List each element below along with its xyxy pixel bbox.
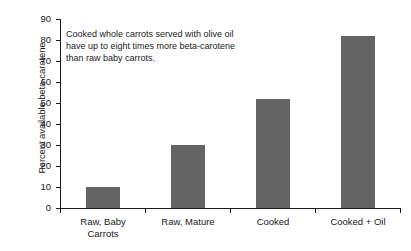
x-axis-tick-mark bbox=[400, 209, 401, 213]
y-axis-tick-mark bbox=[56, 61, 60, 62]
y-axis-tick-label: 90 bbox=[0, 12, 51, 25]
y-axis-tick-mark bbox=[56, 19, 60, 20]
y-axis-tick-label: 20 bbox=[0, 159, 51, 172]
y-axis-tick-label: 80 bbox=[0, 33, 51, 46]
y-axis-tick-label: 70 bbox=[0, 54, 51, 67]
chart-annotation-text: Cooked whole carrots served with olive o… bbox=[66, 29, 296, 64]
x-axis-tick-mark bbox=[60, 209, 61, 213]
y-axis-tick-label: 50 bbox=[0, 96, 51, 109]
bar-chart-figure: Percent available beta-carotene 01020304… bbox=[0, 0, 411, 251]
y-axis-tick-mark bbox=[56, 124, 60, 125]
x-axis-tick-mark bbox=[145, 209, 146, 213]
bar bbox=[171, 145, 205, 208]
bar bbox=[341, 36, 375, 208]
y-axis-tick-mark bbox=[56, 187, 60, 188]
y-axis-tick-label: 30 bbox=[0, 138, 51, 151]
y-axis-tick-label: 40 bbox=[0, 117, 51, 130]
y-axis-tick-mark bbox=[56, 166, 60, 167]
y-axis-tick-mark bbox=[56, 103, 60, 104]
y-axis-tick-mark bbox=[56, 82, 60, 83]
y-axis-tick-mark bbox=[56, 145, 60, 146]
y-axis-tick-mark bbox=[56, 40, 60, 41]
bar bbox=[256, 99, 290, 208]
y-axis-line bbox=[60, 19, 61, 209]
x-axis-tick-mark bbox=[230, 209, 231, 213]
y-axis-tick-label: 60 bbox=[0, 75, 51, 88]
x-axis-tick-mark bbox=[315, 209, 316, 213]
y-axis-tick-label: 0 bbox=[0, 201, 51, 214]
bar bbox=[86, 187, 120, 208]
x-axis-category-label: Cooked + Oil bbox=[303, 216, 411, 228]
y-axis-tick-label: 10 bbox=[0, 180, 51, 193]
